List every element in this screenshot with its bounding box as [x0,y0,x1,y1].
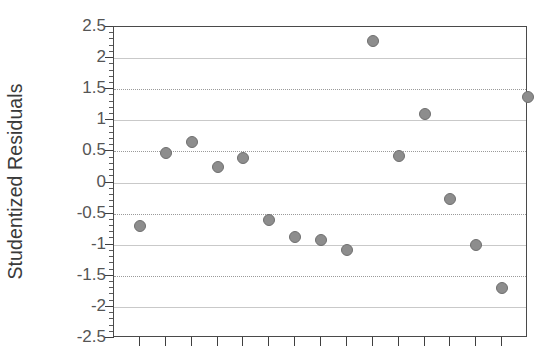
x-tick [191,337,192,346]
data-point [470,239,482,251]
y-axis-tick-label: 2 [28,47,106,67]
x-tick [294,337,295,346]
y-axis-tick-label: 1.5 [28,78,106,98]
data-point [522,91,534,103]
data-point [134,220,146,232]
x-tick [346,337,347,346]
y-axis-tick-label: -2 [28,296,106,316]
x-tick [424,337,425,346]
gridline [114,151,526,152]
y-axis-tick-label: 0 [28,172,106,192]
x-axis-ticks [113,337,527,338]
data-point [393,150,405,162]
y-axis-tick-label: 0.5 [28,140,106,160]
y-axis-tick-label: 1 [28,109,106,129]
data-point [444,193,456,205]
x-tick [268,337,269,346]
gridline [114,214,526,215]
gridline-major [114,120,526,121]
gridline-major [114,58,526,59]
y-axis-title: Studentized Residuals [0,0,30,363]
gridline [114,89,526,90]
plot-area [113,26,527,337]
gridline-major [114,307,526,308]
data-point [263,214,275,226]
x-tick [501,337,502,346]
y-axis-tick-label: -1.5 [28,265,106,285]
data-point [496,282,508,294]
y-axis-tick-label: -1 [28,234,106,254]
data-point [341,244,353,256]
scatter-plot: Studentized Residuals 2.521.510.50-0.5-1… [0,0,555,363]
x-tick [475,337,476,346]
data-point [367,35,379,47]
y-axis-tick-label: -2.5 [28,327,106,347]
x-tick [139,337,140,346]
y-axis-tick-label: 2.5 [28,16,106,36]
x-tick [217,337,218,346]
x-tick [398,337,399,346]
data-point [237,152,249,164]
data-point [289,231,301,243]
data-point [186,136,198,148]
y-axis-tick-labels: 2.521.510.50-0.5-1-1.5-2-2.5 [28,0,106,363]
y-axis-tick-label: -0.5 [28,203,106,223]
x-tick [372,337,373,346]
x-tick [320,337,321,346]
x-tick [165,337,166,346]
data-point [419,108,431,120]
gridline-major [114,183,526,184]
x-tick [449,337,450,346]
data-point [212,161,224,173]
gridline [114,276,526,277]
data-point [160,147,172,159]
x-tick [242,337,243,346]
